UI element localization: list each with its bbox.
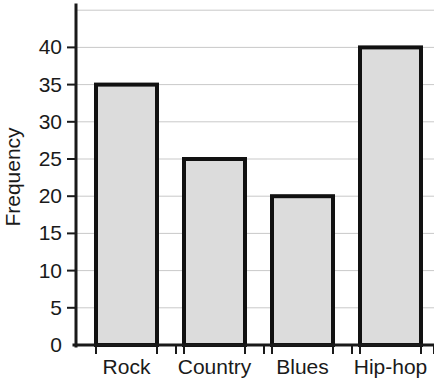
y-tick-label: 25 [39, 147, 62, 170]
y-tick-label: 15 [39, 221, 62, 244]
x-tick-label: Rock [103, 355, 151, 378]
chart-canvas: 0510152025303540 RockCountryBluesHip-hop… [0, 0, 434, 380]
y-tick-label: 10 [39, 259, 62, 282]
x-tick-label: Hip-hop [354, 355, 428, 378]
x-tick-label: Blues [276, 355, 329, 378]
y-tick-label: 5 [50, 296, 62, 319]
y-tick-label: 20 [39, 184, 62, 207]
bar-hip-hop [360, 47, 421, 345]
x-tick-label-group: RockCountryBluesHip-hop [103, 355, 428, 378]
y-axis-title: Frequency [1, 127, 24, 227]
y-tick-label-group: 0510152025303540 [39, 35, 62, 356]
y-tick-label: 35 [39, 73, 62, 96]
y-tick-label: 0 [50, 333, 62, 356]
bar-rock [96, 85, 157, 345]
y-tick-label: 40 [39, 35, 62, 58]
bar-country [184, 159, 245, 345]
x-tick-label: Country [178, 355, 252, 378]
y-tick-label: 30 [39, 110, 62, 133]
bar-blues [272, 196, 333, 345]
bar-chart-figure: 0510152025303540 RockCountryBluesHip-hop… [0, 0, 434, 380]
